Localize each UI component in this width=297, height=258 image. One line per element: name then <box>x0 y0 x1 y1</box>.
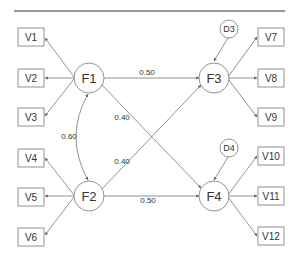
factor-label-f4: F4 <box>206 189 221 204</box>
sem-diagram: V1 V2 V3 V4 V5 V6 V7 V8 V9 V10 V11 V12 F… <box>0 0 297 258</box>
path-coef-f1-f3: 0.50 <box>139 68 155 77</box>
factor-label-f3: F3 <box>206 71 221 86</box>
path-f2-v6 <box>45 197 74 235</box>
path-coef-f2-f4: 0.50 <box>140 196 156 205</box>
path-coef-f1-f4: 0.40 <box>114 113 130 122</box>
indicator-label-v6: V6 <box>25 232 38 243</box>
path-f3-v7 <box>228 37 257 77</box>
path-f3-v9 <box>228 79 257 117</box>
indicator-label-v4: V4 <box>25 153 38 164</box>
indicator-label-v12: V12 <box>262 231 280 242</box>
indicator-label-v3: V3 <box>25 112 38 123</box>
path-d3-f3 <box>214 38 228 61</box>
indicator-label-v10: V10 <box>262 151 280 162</box>
covariance-coef-f1-f2: 0.60 <box>61 132 77 141</box>
path-f4-v12 <box>228 197 257 236</box>
indicator-label-v11: V11 <box>262 191 279 202</box>
indicator-label-v9: V9 <box>265 112 278 123</box>
indicator-label-v1: V1 <box>25 32 38 43</box>
indicator-label-v8: V8 <box>265 73 278 84</box>
path-f4-v10 <box>228 156 257 195</box>
indicator-label-v7: V7 <box>265 32 278 43</box>
covariance-f1-f2 <box>76 94 88 180</box>
factor-label-f1: F1 <box>81 71 96 86</box>
path-d4-f4 <box>214 157 228 180</box>
indicator-label-v5: V5 <box>25 192 38 203</box>
path-f1-v3 <box>45 79 74 116</box>
factor-label-f2: F2 <box>81 189 96 204</box>
disturbance-label-d4: D4 <box>223 143 235 153</box>
path-coef-f2-f3: 0.40 <box>114 157 130 166</box>
path-f1-v1 <box>45 38 74 77</box>
indicator-label-v2: V2 <box>25 73 38 84</box>
disturbance-label-d3: D3 <box>223 24 235 34</box>
path-f2-v4 <box>45 158 74 195</box>
